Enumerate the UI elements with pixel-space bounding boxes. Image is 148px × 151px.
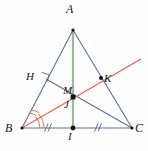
point-label-A: A	[66, 3, 73, 15]
point-K-dot	[99, 76, 103, 80]
angle-arc-upper-icon	[32, 110, 40, 113]
geometry-figure: A B C H M J K I	[0, 0, 148, 151]
point-C-dot	[130, 126, 133, 129]
point-A-dot	[71, 28, 74, 31]
point-B-dot	[20, 126, 23, 129]
point-label-M: M	[63, 85, 72, 96]
angle-arc-upper2-icon	[30, 113, 36, 115]
point-label-K: K	[104, 73, 111, 84]
diagram-canvas	[0, 0, 148, 151]
point-label-H: H	[26, 71, 34, 82]
point-label-C: C	[135, 122, 143, 134]
point-label-I: I	[68, 131, 72, 142]
point-label-B: B	[5, 122, 12, 134]
point-label-J: J	[64, 99, 69, 110]
altitude-HC-line	[46, 79, 132, 128]
